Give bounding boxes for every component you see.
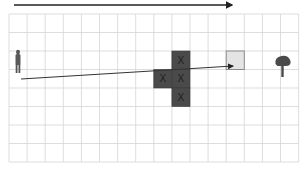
obstacle-label: X [160, 73, 167, 84]
obstacle-label: X [178, 55, 185, 66]
obstacle-cell: X [172, 70, 190, 89]
obstacle-cell: X [154, 70, 172, 89]
obstacle-cell: X [172, 88, 190, 107]
tree-icon [275, 56, 290, 77]
obstacle-cells: XXXX [154, 51, 190, 107]
obstacle-label: X [178, 73, 185, 84]
grid-diagram: XXXX [0, 0, 303, 172]
obstacle-cell: X [172, 51, 190, 70]
path-arrow [21, 66, 233, 79]
obstacle-label: X [178, 92, 185, 103]
